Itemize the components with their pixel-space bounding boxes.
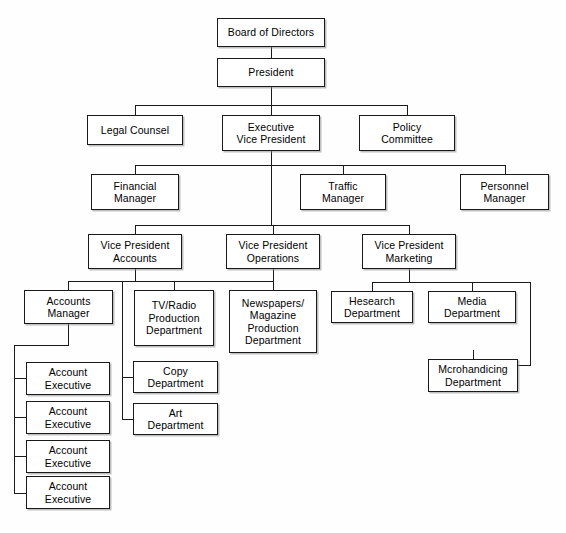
connector-personnel-drop — [505, 165, 506, 174]
connector-vpops-bus — [174, 281, 274, 282]
org-chart: Board of DirectorsPresidentLegal Counsel… — [0, 0, 566, 533]
node-ae3[interactable]: Account Executive — [26, 440, 110, 473]
node-vp_accounts[interactable]: Vice President Accounts — [88, 234, 182, 269]
node-board[interactable]: Board of Directors — [217, 18, 325, 47]
connector-acctmgr-down — [68, 324, 69, 345]
connector-president-down — [271, 87, 272, 105]
node-ae2[interactable]: Account Executive — [26, 401, 110, 434]
connector-financial-drop — [135, 165, 136, 174]
node-traffic[interactable]: Traffic Manager — [300, 174, 386, 210]
node-research[interactable]: Hesearch Department — [331, 291, 413, 323]
connector-evp-down2 — [271, 165, 272, 225]
connector-vpmkt-down — [409, 269, 410, 282]
connector-tvradio-drop — [174, 281, 175, 290]
node-policy[interactable]: Policy Committee — [359, 115, 455, 151]
node-acct_mgr[interactable]: Accounts Manager — [24, 290, 113, 324]
node-merch[interactable]: Mcrohandicing Department — [428, 359, 518, 392]
connector-evp-drop — [271, 105, 272, 115]
connector-vpops-drop — [273, 225, 274, 234]
connector-newspapers-drop — [273, 281, 274, 290]
connector-acctmgr-drop — [68, 281, 69, 290]
node-art[interactable]: Art Department — [133, 403, 218, 435]
node-evp[interactable]: Executive Vice President — [222, 115, 320, 151]
connector-evp-down — [271, 151, 272, 165]
connector-ops-spine — [122, 281, 123, 420]
node-media[interactable]: Media Department — [428, 291, 516, 323]
node-personnel[interactable]: Personnel Manager — [460, 174, 549, 210]
connector-research-drop — [372, 282, 373, 291]
connector-ae-spine — [14, 345, 15, 493]
node-financial[interactable]: Financial Manager — [91, 174, 179, 210]
connector-board-president — [271, 47, 272, 58]
node-vp_operations[interactable]: Vice President Operations — [226, 234, 320, 269]
connector-vpacct-down — [135, 269, 136, 281]
node-ae1[interactable]: Account Executive — [26, 362, 110, 395]
node-legal[interactable]: Legal Counsel — [87, 115, 183, 145]
connector-legal-drop — [135, 105, 136, 115]
connector-merch-spine — [530, 282, 531, 365]
node-ae4[interactable]: Account Executive — [26, 476, 110, 509]
node-copy[interactable]: Copy Department — [133, 361, 218, 393]
connector-vpacct-drop — [135, 225, 136, 234]
connector-vpmkt-bus — [372, 282, 531, 283]
connector-media-drop — [472, 282, 473, 291]
node-president[interactable]: President — [217, 58, 325, 87]
node-newspapers[interactable]: Newspapers/ Magazine Production Departme… — [229, 290, 317, 353]
connector-acctmgr-left — [14, 345, 69, 346]
connector-tier4-bus — [135, 225, 409, 226]
connector-vpops-down — [273, 269, 274, 281]
connector-tier3-bus — [135, 165, 505, 166]
node-vp_marketing[interactable]: Vice President Marketing — [362, 234, 456, 269]
node-tv_radio[interactable]: TV/Radio Production Department — [134, 290, 214, 346]
connector-vpmkt-drop — [409, 225, 410, 234]
connector-traffic-drop — [343, 165, 344, 174]
connector-policy-drop — [407, 105, 408, 115]
connector-ops-spine-top — [122, 281, 174, 282]
